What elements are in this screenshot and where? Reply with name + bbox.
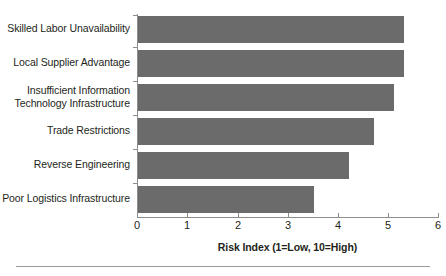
bar-poor-logistics-infrastructure bbox=[138, 186, 314, 213]
x-axis-tick-2 bbox=[238, 213, 239, 218]
bar-insufficient-it-infrastructure bbox=[138, 84, 394, 111]
x-axis-label-0: 0 bbox=[125, 219, 149, 231]
category-label-local-supplier-advantage: Local Supplier Advantage bbox=[13, 56, 130, 69]
y-axis-tick-1 bbox=[133, 47, 138, 48]
y-axis-tick-2 bbox=[133, 81, 138, 82]
bar-local-supplier-advantage bbox=[138, 50, 404, 77]
x-axis-tick-6 bbox=[438, 213, 439, 218]
x-axis-tick-4 bbox=[338, 213, 339, 218]
x-axis-title: Risk Index (1=Low, 10=High) bbox=[137, 241, 438, 253]
bar-chart-figure: Skilled Labor Unavailability Local Suppl… bbox=[0, 0, 446, 276]
y-axis-line bbox=[137, 14, 138, 218]
footer-divider bbox=[16, 266, 430, 267]
x-axis-label-6: 6 bbox=[426, 219, 446, 231]
y-axis-tick-0 bbox=[133, 15, 138, 16]
bar-reverse-engineering bbox=[138, 152, 349, 179]
x-axis-tick-1 bbox=[187, 213, 188, 218]
x-axis-tick-3 bbox=[288, 213, 289, 218]
x-axis-label-3: 3 bbox=[276, 219, 300, 231]
y-axis-tick-4 bbox=[133, 149, 138, 150]
category-label-poor-logistics-infrastructure: Poor Logistics Infrastructure bbox=[2, 192, 130, 205]
bar-skilled-labor-unavailability bbox=[138, 16, 404, 43]
x-axis-tick-0 bbox=[137, 213, 138, 218]
category-label-insufficient-it-infrastructure: Insufficient Information Technology Infr… bbox=[15, 84, 130, 109]
y-axis-tick-5 bbox=[133, 183, 138, 184]
x-axis-label-4: 4 bbox=[326, 219, 350, 231]
y-axis-tick-3 bbox=[133, 115, 138, 116]
bar-trade-restrictions bbox=[138, 118, 374, 145]
category-label-reverse-engineering: Reverse Engineering bbox=[34, 158, 130, 171]
x-axis-label-5: 5 bbox=[376, 219, 400, 231]
x-axis-label-1: 1 bbox=[175, 219, 199, 231]
x-axis-tick-5 bbox=[388, 213, 389, 218]
category-label-trade-restrictions: Trade Restrictions bbox=[47, 124, 130, 137]
category-label-skilled-labor-unavailability: Skilled Labor Unavailability bbox=[7, 22, 130, 35]
x-axis-label-2: 2 bbox=[226, 219, 250, 231]
